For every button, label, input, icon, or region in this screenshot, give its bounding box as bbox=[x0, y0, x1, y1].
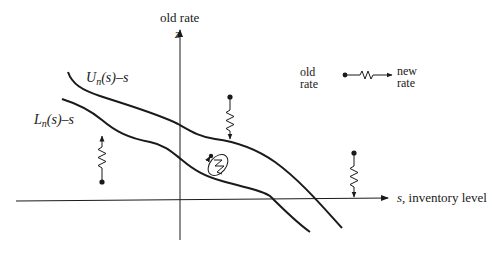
legend: old rate new rate bbox=[300, 64, 417, 91]
z-axis-symbol: z bbox=[174, 26, 180, 41]
z-axis-title: old rate bbox=[160, 10, 200, 25]
upward-adjustment-spring bbox=[98, 136, 106, 185]
legend-spring-arrow bbox=[345, 71, 392, 79]
s-axis-label: s, inventory level bbox=[397, 190, 487, 205]
legend-from-label-line2: rate bbox=[300, 77, 318, 91]
lower-curve-label: Ln(s)–s bbox=[33, 112, 75, 129]
stay-loop-icon bbox=[204, 151, 232, 180]
lower-curve bbox=[62, 99, 310, 232]
legend-to-label-line2: rate bbox=[397, 76, 415, 90]
downward-adjustment-spring bbox=[226, 94, 234, 139]
upper-curve-label: Un(s)–s bbox=[86, 70, 129, 87]
s-axis bbox=[16, 198, 388, 201]
upper-curve bbox=[68, 72, 342, 228]
inventory-rate-diagram: old rate z s, inventory level Un(s)–s Ln… bbox=[0, 0, 492, 254]
reset-to-axis-spring bbox=[350, 150, 358, 197]
